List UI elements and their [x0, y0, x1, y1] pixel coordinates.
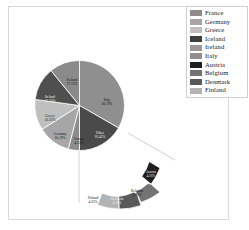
slice-label-other-name: Other [95, 131, 106, 135]
legend-item-ireland[interactable]: Ireland [190, 43, 245, 52]
slice-label-finland-name: Finland [88, 196, 99, 200]
slice-label-ireland: Ireland 11.74% [45, 95, 56, 103]
legend-swatch-germany [190, 19, 202, 25]
legend-label-denmark: Denmark [205, 78, 230, 87]
slice-label-iceland: Iceland 17.12% [67, 78, 78, 86]
chart-canvas: Iceland 17.12% Ireland 11.74% Greece 10.… [0, 0, 249, 230]
slice-label-austria: Austria 4.16% [146, 170, 156, 178]
legend-item-austria[interactable]: Austria [190, 61, 245, 70]
legend-item-finland[interactable]: Finland [190, 86, 245, 95]
legend-swatch-belgium [190, 70, 202, 76]
slice-label-iceland-name: Iceland [67, 78, 78, 82]
legend-item-france[interactable]: France [190, 9, 245, 18]
slice-label-other-aggregate: Other 16.42% [95, 131, 106, 139]
slice-label-greece-name: Greece [45, 114, 56, 118]
legend-swatch-iceland [190, 36, 202, 42]
legend-label-germany: Germany [205, 18, 230, 27]
legend-label-france: France [205, 9, 224, 18]
slice-label-austria-pct: 4.16% [146, 174, 156, 178]
legend-item-greece[interactable]: Greece [190, 26, 245, 35]
slice-label-germany-name: Germany [53, 132, 66, 136]
legend-item-denmark[interactable]: Denmark [190, 78, 245, 87]
slice-label-france-name: France [74, 137, 84, 141]
slice-label-france: France 4.12% [74, 137, 84, 145]
slice-label-finland-pct: 4.35% [88, 200, 99, 204]
legend-label-ireland: Ireland [205, 43, 224, 52]
legend-swatch-italy [190, 53, 202, 59]
legend-item-iceland[interactable]: Iceland [190, 35, 245, 44]
slice-label-belgium-pct: 3.79% [131, 193, 143, 197]
legend-label-finland: Finland [205, 86, 226, 95]
slice-label-greece: Greece 10.22% [45, 114, 56, 122]
legend-item-italy[interactable]: Italy [190, 52, 245, 61]
slice-label-italy-pct: 30.19% [102, 102, 113, 106]
slice-label-germany: Germany 10.19% [53, 132, 66, 140]
legend-swatch-austria [190, 62, 202, 68]
slice-label-iceland-pct: 17.12% [67, 82, 78, 86]
slice-label-denmark: Denmark 4.12% [110, 197, 123, 205]
legend-label-italy: Italy [205, 52, 218, 61]
slice-label-italy: Italy 30.19% [102, 98, 113, 106]
slice-label-belgium: Belgium 3.79% [131, 189, 143, 197]
slice-label-denmark-pct: 4.12% [110, 201, 123, 205]
legend-label-austria: Austria [205, 61, 225, 70]
legend-item-germany[interactable]: Germany [190, 18, 245, 27]
legend-swatch-finland [190, 88, 202, 94]
slice-label-austria-name: Austria [146, 170, 156, 174]
legend-label-greece: Greece [205, 26, 224, 35]
slice-label-greece-pct: 10.22% [45, 118, 56, 122]
legend-item-belgium[interactable]: Belgium [190, 69, 245, 78]
slice-label-ireland-pct: 11.74% [45, 99, 56, 103]
slice-label-belgium-name: Belgium [131, 189, 143, 193]
legend-swatch-france [190, 10, 202, 16]
legend-swatch-greece [190, 27, 202, 33]
legend-swatch-ireland [190, 45, 202, 51]
legend-swatch-denmark [190, 79, 202, 85]
slice-label-other-pct: 16.42% [95, 135, 106, 139]
slice-label-italy-name: Italy [102, 98, 113, 102]
chart-legend: France Germany Greece Iceland Ireland It… [186, 6, 248, 98]
slice-label-france-pct: 4.12% [74, 141, 84, 145]
slice-label-denmark-name: Denmark [110, 197, 123, 201]
legend-label-belgium: Belgium [205, 69, 228, 78]
slice-label-ireland-name: Ireland [45, 95, 56, 99]
legend-label-iceland: Iceland [205, 35, 225, 44]
exploded-arc-group [98, 162, 161, 210]
slice-label-germany-pct: 10.19% [53, 136, 66, 140]
slice-label-finland: Finland 4.35% [88, 196, 99, 204]
